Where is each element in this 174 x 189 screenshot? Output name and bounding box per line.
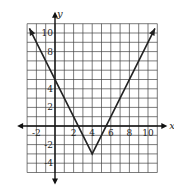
y-axis-label: y (56, 8, 63, 19)
x-axis-label: x (169, 120, 174, 131)
svg-text:2: 2 (71, 128, 77, 138)
svg-text:10: 10 (142, 128, 154, 138)
svg-text:-2: -2 (44, 140, 53, 150)
svg-text:-4: -4 (44, 158, 53, 168)
svg-text:10: 10 (42, 28, 54, 38)
svg-text:8: 8 (127, 128, 133, 138)
svg-text:4: 4 (89, 128, 95, 138)
svg-text:4: 4 (47, 84, 53, 94)
svg-text:2: 2 (47, 102, 53, 112)
svg-text:-2: -2 (32, 128, 41, 138)
svg-text:8: 8 (47, 47, 53, 57)
coordinate-plane: -2246810-4-224810 x y (0, 0, 174, 189)
svg-text:6: 6 (108, 128, 114, 138)
